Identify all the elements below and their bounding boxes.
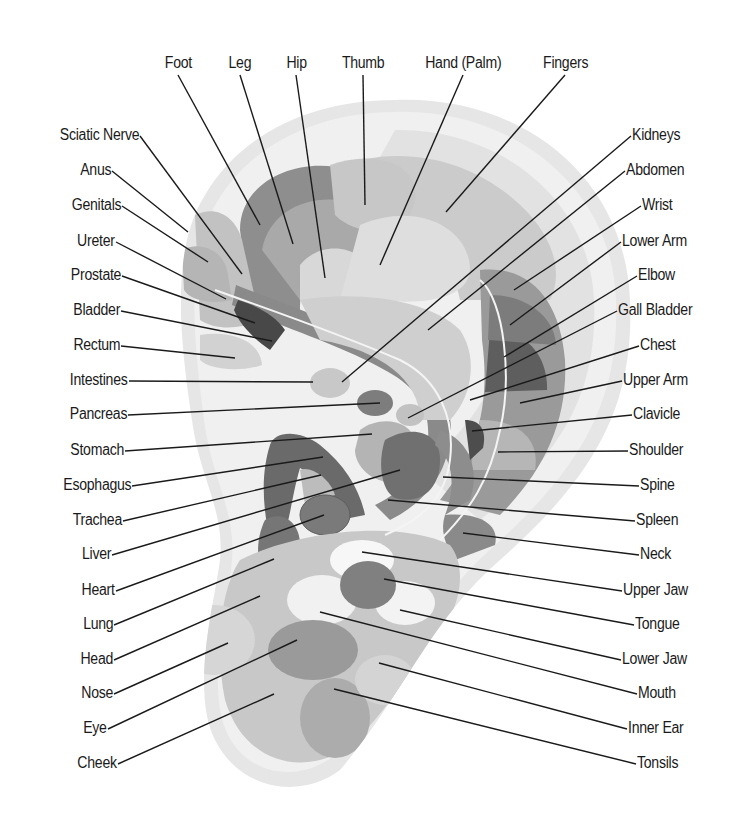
label-wrist: Wrist [642, 196, 672, 214]
inner-ear-region [355, 655, 415, 705]
label-lower-arm: Lower Arm [622, 232, 687, 250]
label-spine: Spine [640, 476, 675, 494]
label-mouth: Mouth [638, 684, 676, 702]
label-eye: Eye [83, 719, 106, 737]
label-intestines: Intestines [70, 371, 128, 389]
label-lower-jaw: Lower Jaw [622, 650, 687, 668]
label-tonsils: Tonsils [637, 754, 678, 772]
label-hand-palm: Hand (Palm) [425, 54, 501, 72]
label-ureter: Ureter [77, 232, 115, 250]
leader-line-tonsils [334, 689, 636, 764]
leader-line-anus [112, 171, 188, 232]
label-lung: Lung [83, 615, 113, 633]
label-clavicle: Clavicle [633, 405, 680, 423]
label-rectum: Rectum [73, 336, 120, 354]
label-leg: Leg [229, 54, 252, 72]
label-genitals: Genitals [72, 196, 122, 214]
label-tongue: Tongue [635, 615, 680, 633]
label-shoulder: Shoulder [629, 441, 683, 459]
label-upper-jaw: Upper Jaw [623, 581, 688, 599]
label-trachea: Trachea [73, 511, 122, 529]
label-thumb: Thumb [342, 54, 385, 72]
label-prostate: Prostate [71, 266, 121, 284]
label-neck: Neck [640, 545, 671, 563]
heart-region [300, 495, 350, 535]
label-anus: Anus [80, 161, 111, 179]
leader-line-shoulder [498, 451, 628, 452]
label-liver: Liver [82, 545, 111, 563]
label-cheek: Cheek [77, 754, 116, 772]
leader-line-inner-ear [379, 663, 627, 729]
label-pancreas: Pancreas [70, 405, 127, 423]
label-esophagus: Esophagus [63, 476, 131, 494]
label-heart: Heart [82, 581, 115, 599]
label-abdomen: Abdomen [626, 161, 684, 179]
label-elbow: Elbow [638, 266, 675, 284]
label-sciatic-nerve: Sciatic Nerve [60, 126, 140, 144]
label-head: Head [80, 650, 113, 668]
gall-bladder-spot [396, 404, 424, 426]
label-nose: Nose [81, 684, 113, 702]
label-foot: Foot [164, 54, 191, 72]
label-upper-arm: Upper Arm [623, 371, 688, 389]
label-spleen: Spleen [636, 511, 678, 529]
label-gall-bladder: Gall Bladder [618, 301, 692, 319]
label-inner-ear: Inner Ear [628, 719, 684, 737]
intestines-spot [310, 368, 350, 398]
label-stomach: Stomach [70, 441, 124, 459]
label-kidneys: Kidneys [632, 126, 680, 144]
label-hip: Hip [286, 54, 306, 72]
label-fingers: Fingers [543, 54, 588, 72]
ear-reflexology-diagram: FootLegHipThumbHand (Palm)FingersSciatic… [0, 0, 747, 822]
label-bladder: Bladder [73, 301, 120, 319]
tongue-spot [340, 561, 396, 609]
label-chest: Chest [640, 336, 675, 354]
eye-region [268, 620, 358, 680]
